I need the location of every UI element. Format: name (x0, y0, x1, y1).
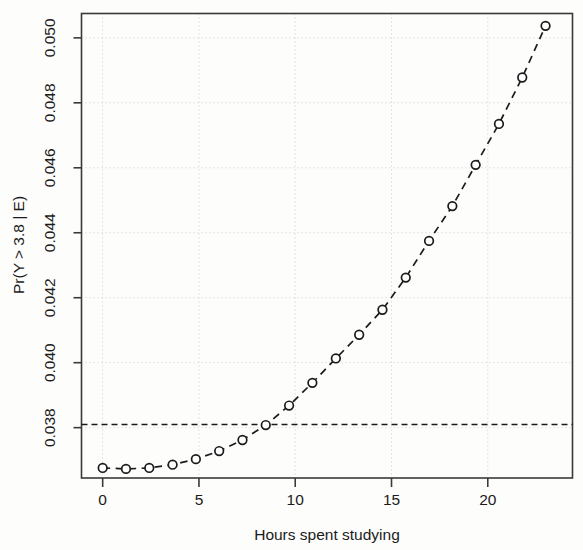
data-point-marker-4 (192, 455, 201, 464)
data-point-marker-9 (308, 379, 317, 388)
x-axis-tick-labels: 05101520 (98, 491, 496, 508)
y-axis-ticks (74, 38, 82, 428)
x-axis-title: Hours spent studying (254, 526, 400, 543)
data-point-markers (98, 22, 549, 474)
x-tick-label-2: 10 (287, 491, 305, 508)
data-point-marker-10 (332, 354, 341, 363)
plot-frame (82, 14, 573, 479)
chart-figure: 0.0380.0400.0420.0440.0460.0480.050 0510… (0, 0, 583, 550)
y-tick-label-3: 0.044 (42, 213, 59, 252)
data-point-marker-12 (378, 305, 387, 314)
y-axis-tick-labels: 0.0380.0400.0420.0440.0460.0480.050 (42, 18, 59, 447)
data-point-marker-7 (261, 421, 270, 430)
data-point-marker-13 (401, 273, 410, 282)
data-point-marker-1 (122, 465, 131, 474)
data-point-marker-0 (98, 464, 107, 473)
y-tick-label-5: 0.048 (42, 83, 59, 122)
data-point-marker-15 (448, 202, 457, 211)
x-axis-ticks (103, 478, 488, 487)
data-point-marker-5 (215, 447, 224, 456)
data-point-marker-14 (425, 237, 434, 246)
data-point-marker-3 (168, 460, 177, 469)
x-tick-label-3: 15 (383, 491, 400, 508)
data-point-marker-16 (471, 161, 480, 170)
y-tick-label-6: 0.050 (42, 18, 59, 57)
y-tick-label-0: 0.038 (42, 408, 59, 447)
y-tick-label-1: 0.040 (42, 343, 59, 382)
data-point-marker-19 (541, 22, 550, 31)
x-tick-label-0: 0 (98, 491, 107, 508)
data-series-line (103, 26, 546, 469)
data-point-marker-8 (285, 401, 294, 410)
y-axis-title: Pr(Y > 3.8 | E) (10, 196, 27, 294)
grid-lines (82, 14, 573, 479)
x-tick-label-1: 5 (195, 491, 204, 508)
data-point-marker-17 (495, 120, 504, 129)
x-tick-label-4: 20 (479, 491, 497, 508)
y-tick-label-2: 0.042 (42, 278, 59, 317)
data-point-marker-18 (518, 73, 527, 82)
chart-canvas: 0.0380.0400.0420.0440.0460.0480.050 0510… (0, 0, 583, 550)
data-point-marker-11 (355, 330, 364, 339)
y-tick-label-4: 0.046 (42, 148, 59, 187)
data-point-marker-6 (238, 436, 247, 445)
data-point-marker-2 (145, 464, 154, 473)
